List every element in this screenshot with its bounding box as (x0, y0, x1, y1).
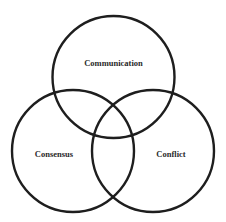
label-conflict: Conflict (156, 149, 185, 159)
label-consensus: Consensus (35, 149, 74, 159)
circle-communication (53, 16, 175, 138)
label-communication: Communication (84, 58, 143, 68)
circle-conflict (92, 90, 214, 212)
venn-diagram: Communication Consensus Conflict (0, 0, 226, 222)
